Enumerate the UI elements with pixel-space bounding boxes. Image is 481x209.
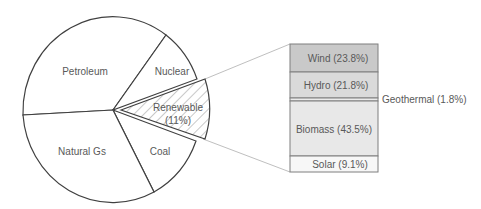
label-biomass: Biomass (43.5%) [296, 124, 372, 135]
label-wind: Wind (23.8%) [308, 53, 369, 64]
label-geothermal: Geothermal (1.8%) [382, 94, 466, 105]
connector-line-top [205, 44, 290, 79]
label-coal: Coal [150, 146, 171, 157]
label-renewable-pct: (11%) [165, 115, 191, 126]
label-renewable: Renewable [153, 102, 203, 113]
label-hydro: Hydro (21.8%) [304, 80, 368, 91]
label-nuclear: Nuclear [155, 66, 190, 77]
connector-line-bottom [203, 139, 290, 172]
bar-of-pie-chart: Petroleum Nuclear Renewable (11%) Coal N… [0, 0, 481, 209]
label-petroleum: Petroleum [62, 66, 108, 77]
label-natural-gas: Natural Gs [58, 146, 106, 157]
label-solar: Solar (9.1%) [312, 159, 368, 170]
